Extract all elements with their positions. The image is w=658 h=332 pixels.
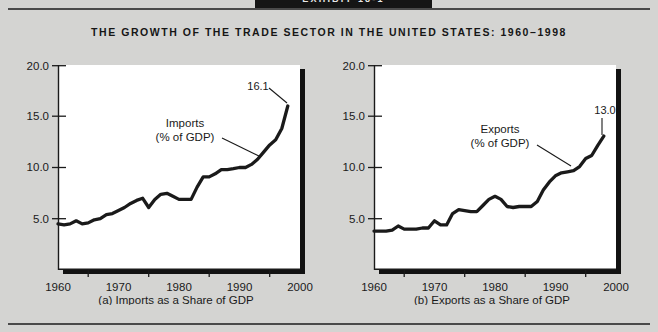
plot-area-background xyxy=(58,65,300,270)
series-label-line1: Exports xyxy=(481,123,520,135)
series-label-line2: (% of GDP) xyxy=(156,131,215,143)
x-tick-label-1960: 1960 xyxy=(45,281,71,293)
exhibit-page: EXHIBIT 18-1 THE GROWTH OF THE TRADE SEC… xyxy=(0,0,658,332)
y-tick-label-20: 20.0 xyxy=(343,60,365,72)
chart-panel-exports: 20.0 15.0 10.0 5.0 1960 1970 1980 1990 2… xyxy=(330,55,648,305)
y-tick-label-15: 15.0 xyxy=(343,110,365,122)
bottom-divider-rule xyxy=(8,323,650,325)
x-tick-label-1980: 1980 xyxy=(166,281,192,293)
x-tick-label-1980: 1980 xyxy=(482,281,508,293)
chart-panel-imports: 20.0 15.0 10.0 5.0 1960 1970 1980 1990 2… xyxy=(10,55,328,305)
end-value-label: 13.0 xyxy=(594,104,615,116)
x-tick-label-2000: 2000 xyxy=(287,281,313,293)
y-tick-label-10: 10.0 xyxy=(343,161,365,173)
y-tick-label-15: 15.0 xyxy=(27,110,49,122)
panel-caption: (b) Exports as a Share of GDP xyxy=(414,294,570,305)
page-title: THE GROWTH OF THE TRADE SECTOR IN THE UN… xyxy=(0,26,658,38)
x-tick-label-1960: 1960 xyxy=(361,281,387,293)
x-tick-label-1970: 1970 xyxy=(106,281,132,293)
x-tick-label-2000: 2000 xyxy=(603,281,629,293)
x-tick-label-1970: 1970 xyxy=(422,281,448,293)
y-tick-label-10: 10.0 xyxy=(27,161,49,173)
exhibit-number-bar: EXHIBIT 18-1 xyxy=(255,0,432,8)
y-tick-label-5: 5.0 xyxy=(33,213,49,225)
series-label-line1: Imports xyxy=(166,117,205,129)
y-tick-label-5: 5.0 xyxy=(349,213,365,225)
end-value-label: 16.1 xyxy=(247,80,268,92)
series-label-line2: (% of GDP) xyxy=(471,137,530,149)
panel-caption: (a) Imports as a Share of GDP xyxy=(98,294,254,305)
y-tick-label-20: 20.0 xyxy=(27,60,49,72)
x-tick-label-1990: 1990 xyxy=(543,281,569,293)
top-divider-rule xyxy=(8,8,650,10)
x-tick-label-1990: 1990 xyxy=(227,281,253,293)
